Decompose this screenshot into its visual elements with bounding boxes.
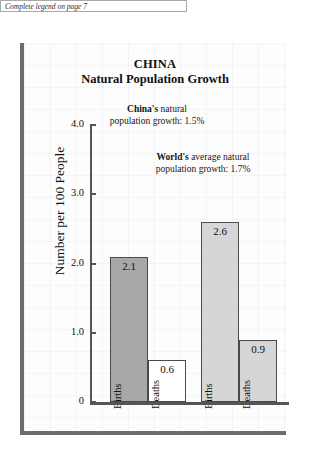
bar-china-births [110, 257, 148, 402]
bar-value-label: 2.1 [109, 260, 149, 272]
bar-value-label: 0.9 [238, 343, 278, 355]
bar-category-label: Births [112, 383, 123, 409]
bar-value-label: 2.6 [200, 225, 240, 237]
x-axis-baseline [90, 402, 289, 405]
legend-caption-box: Complete legend on page 7 [0, 0, 187, 12]
bar-category-label: Births [203, 383, 214, 409]
legend-caption-text: Complete legend on page 7 [5, 1, 87, 12]
bar-world-births [201, 222, 239, 402]
bar-value-label: 0.6 [147, 363, 187, 375]
bars-layer: 2.1Births0.6Deaths2.6Births0.9Deaths [24, 43, 290, 402]
chart-panel: CHINA Natural Population Growth China's … [20, 43, 286, 435]
